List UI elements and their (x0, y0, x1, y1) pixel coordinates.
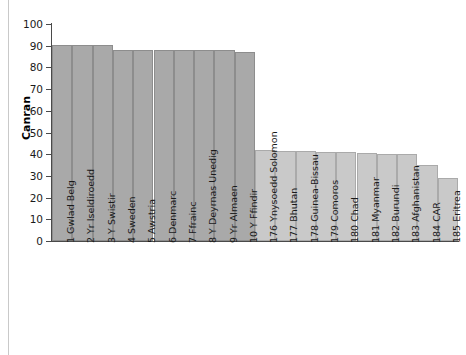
y-tick-label: 90 (0, 41, 51, 52)
x-axis-label: 176 Ynysoedd Solomon (269, 131, 279, 243)
x-axis-label: 8 Y Deyrnas Unedig (208, 149, 218, 243)
x-axis-label: 177 Bhutan (289, 188, 299, 243)
y-tick-label: 70 (0, 84, 51, 95)
y-tick-label: 80 (0, 62, 51, 73)
x-axis-label: 10 Y Ffindir (249, 189, 259, 243)
x-axis-label: 5 Awstria (147, 199, 157, 243)
x-axis-label: 3 Y Swistir (107, 193, 117, 243)
y-tick-label: 0 (0, 236, 51, 247)
x-axis-label: 9 Yr Almaen (229, 185, 239, 243)
x-axis-label: 181 Myanmar (371, 177, 381, 243)
x-axis-label: 6 Denmarc (168, 191, 178, 243)
y-tick-label: 100 (0, 19, 51, 30)
chart-figure: Canran 0102030405060708090100 1 Gwlad Be… (0, 0, 466, 355)
x-axis-label: 180 Chad (350, 197, 360, 243)
x-axis-label: 182 Burundi (391, 185, 401, 243)
y-tick-label: 60 (0, 106, 51, 117)
x-axis-label: 184 CAR (432, 202, 442, 243)
x-axis-label: 7 Ffrainc (188, 202, 198, 243)
y-tick-label: 10 (0, 214, 51, 225)
y-tick-label: 30 (0, 171, 51, 182)
x-axis-label: 179 Comoros (330, 180, 340, 243)
x-axis-label: 183 Afghanistan (411, 165, 421, 243)
x-axis-label: 1 Gwlad Belg (66, 180, 76, 243)
x-axis-label: 185 Eritrea (452, 190, 462, 243)
x-axis-label: 4 Sweden (127, 196, 137, 243)
y-tick-label: 20 (0, 193, 51, 204)
y-tick-label: 40 (0, 149, 51, 160)
x-axis-label: 2 Yr Iseldiroedd (86, 169, 96, 243)
x-axis-labels: 1 Gwlad Belg2 Yr Iseldiroedd3 Y Swistir4… (52, 243, 458, 355)
y-tick-label: 50 (0, 128, 51, 139)
x-axis-label: 178 Guinea-Bissau (310, 154, 320, 243)
